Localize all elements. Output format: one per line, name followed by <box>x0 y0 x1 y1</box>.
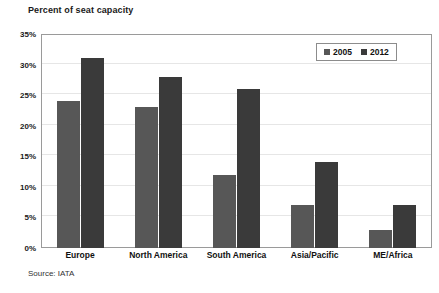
legend-entry[interactable]: 2012 <box>361 47 389 57</box>
legend-swatch-icon <box>324 49 330 55</box>
bar[interactable] <box>135 107 158 248</box>
bar-group <box>276 34 354 248</box>
legend-label: 2012 <box>370 47 389 57</box>
legend-swatch-icon <box>361 49 367 55</box>
bar-group <box>41 34 119 248</box>
bar[interactable] <box>369 230 392 248</box>
bar[interactable] <box>159 77 182 248</box>
x-axis-tick-label: South America <box>207 250 267 260</box>
x-axis-tick-label: North America <box>129 250 187 260</box>
x-axis-tick-label: Asia/Pacific <box>291 250 339 260</box>
legend-label: 2005 <box>333 47 352 57</box>
y-axis-tick-label: 0% <box>24 244 36 253</box>
y-axis-tick-label: 30% <box>20 60 36 69</box>
legend-entry[interactable]: 2005 <box>324 47 352 57</box>
x-axis-tick-label: ME/Africa <box>373 250 412 260</box>
bar[interactable] <box>393 205 416 248</box>
bar-group <box>119 34 197 248</box>
bar[interactable] <box>315 162 338 248</box>
y-axis-tick-label: 15% <box>20 152 36 161</box>
y-axis-tick-label: 35% <box>20 30 36 39</box>
bar[interactable] <box>237 89 260 248</box>
bar[interactable] <box>81 58 104 248</box>
y-axis-tick-label: 10% <box>20 182 36 191</box>
y-axis-tick-label: 25% <box>20 91 36 100</box>
bar-group <box>354 34 432 248</box>
bar[interactable] <box>57 101 80 248</box>
x-axis-tick-label: Europe <box>65 250 94 260</box>
y-axis: 0%5%10%15%20%25%30%35% <box>0 34 36 248</box>
chart-legend: 20052012 <box>316 43 397 61</box>
y-axis-tick-label: 5% <box>24 213 36 222</box>
x-axis: EuropeNorth AmericaSouth AmericaAsia/Pac… <box>41 250 432 266</box>
bar[interactable] <box>291 205 314 248</box>
source-note: Source: IATA <box>28 269 74 278</box>
chart-figure: Percent of seat capacity 0%5%10%15%20%25… <box>0 0 439 293</box>
bar[interactable] <box>213 175 236 248</box>
chart-title: Percent of seat capacity <box>28 5 133 15</box>
bar-group <box>197 34 275 248</box>
y-axis-tick-label: 20% <box>20 121 36 130</box>
bars-layer <box>41 34 432 248</box>
